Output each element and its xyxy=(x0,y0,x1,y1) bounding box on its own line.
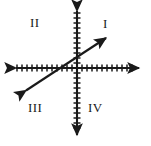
quadrant-1-label: I xyxy=(103,17,108,30)
coordinate-plane-figure: II I III IV xyxy=(0,0,151,146)
y-axis xyxy=(74,11,81,135)
quadrant-3-label: III xyxy=(28,101,42,114)
coordinate-plane-graphic xyxy=(0,0,151,146)
quadrant-2-label: II xyxy=(30,16,39,29)
diagonal-line xyxy=(26,38,106,91)
quadrant-4-label: IV xyxy=(88,101,103,114)
